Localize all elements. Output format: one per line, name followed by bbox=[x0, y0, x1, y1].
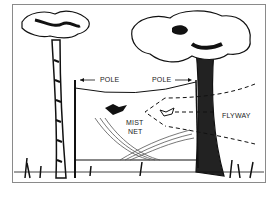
pole-left-label: POLE bbox=[100, 76, 119, 83]
left-tree-icon bbox=[22, 11, 89, 178]
bird-in-net-icon bbox=[105, 104, 127, 115]
net-label: NET bbox=[128, 128, 143, 135]
right-tree-icon bbox=[132, 11, 251, 176]
flyway-label: FLYWAY bbox=[222, 112, 251, 119]
mist-net-illustration bbox=[0, 0, 277, 197]
flying-bird-icon bbox=[160, 108, 174, 116]
mist-label: MIST bbox=[126, 119, 144, 126]
pole-right-label: POLE bbox=[152, 76, 171, 83]
